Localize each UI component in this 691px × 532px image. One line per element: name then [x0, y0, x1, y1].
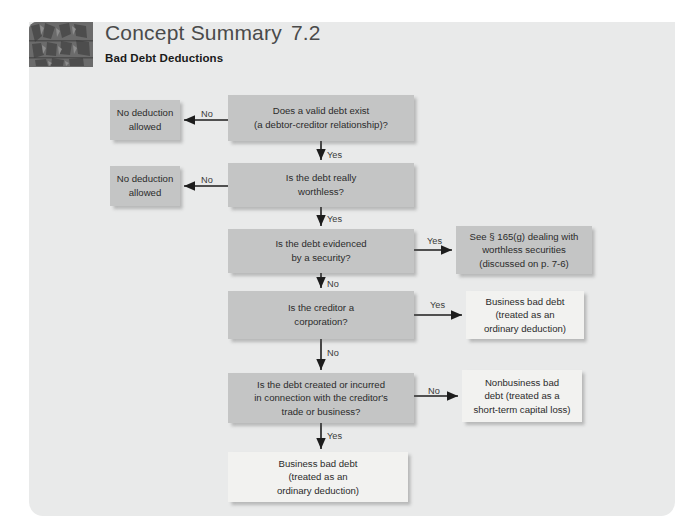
edge-label-no-2: No [201, 175, 213, 185]
edge-label-no-7: No [327, 348, 339, 358]
flow-node-label: Business bad debt(treated as anordinary … [272, 457, 364, 498]
flow-node-no1: No deductionallowed [110, 100, 180, 140]
flow-node-label: No deductionallowed [112, 172, 179, 199]
flow-node-label: Is the debt created or incurredin connec… [249, 378, 393, 419]
flow-node-label: No deductionallowed [112, 106, 179, 133]
edge-label-yes-6: Yes [430, 300, 445, 310]
flow-node-label: Nonbusiness baddebt (treated as ashort-t… [468, 376, 575, 417]
flow-node-q5: Is the debt created or incurredin connec… [228, 373, 414, 423]
edge-label-yes-4: Yes [427, 236, 442, 246]
flow-node-q1: Does a valid debt exist(a debtor-credito… [228, 95, 414, 141]
edge-label-no-5: No [327, 279, 339, 289]
tree-bark-texture-thumbnail [29, 22, 93, 67]
flow-node-label: Does a valid debt exist(a debtor-credito… [249, 104, 393, 131]
edge-label-no-0: No [201, 109, 213, 119]
edge-label-yes-1: Yes [327, 150, 342, 160]
flow-node-no2: No deductionallowed [110, 166, 180, 206]
page-subtitle: Bad Debt Deductions [105, 52, 223, 64]
flow-node-q2: Is the debt reallyworthless? [228, 163, 414, 207]
flow-node-label: Is the debt reallyworthless? [281, 171, 361, 198]
flow-node-bus2: Business bad debt(treated as anordinary … [228, 452, 408, 502]
edge-label-yes-3: Yes [327, 214, 342, 224]
flow-node-q4: Is the creditor acorporation? [228, 291, 414, 339]
flow-node-bus1: Business bad debt(treated as anordinary … [466, 291, 584, 339]
flow-node-sec: See § 165(g) dealing withworthless secur… [456, 226, 592, 274]
flow-node-label: Is the creditor acorporation? [283, 301, 359, 328]
page-title-text: Concept Summary [105, 21, 282, 44]
flow-node-label: Business bad debt(treated as anordinary … [479, 295, 571, 336]
page-title-number: 7.2 [291, 21, 321, 44]
edge-label-yes-9: Yes [327, 431, 342, 441]
flow-node-label: See § 165(g) dealing withworthless secur… [465, 230, 584, 271]
flow-node-label: Is the debt evidencedby a security? [270, 237, 371, 264]
flow-node-q3: Is the debt evidencedby a security? [228, 229, 414, 273]
edge-label-no-8: No [428, 386, 440, 396]
page-title: Concept Summary7.2 [105, 21, 321, 45]
flow-node-nonbus: Nonbusiness baddebt (treated as ashort-t… [462, 370, 582, 422]
